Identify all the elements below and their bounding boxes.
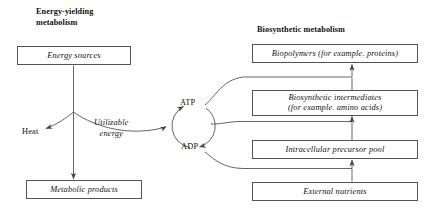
label-heat: Heat <box>22 127 38 137</box>
node-biopolymers: Biopolymers (for example. proteins) <box>252 44 418 63</box>
node-intracellular-precursor-pool: Intracellular precursor pool <box>252 140 418 159</box>
wire-junction-to-heat <box>46 112 74 129</box>
metabolism-flow-diagram: Energy-yielding metabolism Biosynthetic … <box>0 0 431 212</box>
wire-atp-to-adp-arc <box>200 108 216 147</box>
node-biosynthetic-intermediates: Biosynthetic intermediates (for example.… <box>252 90 418 116</box>
label-adp: ADP <box>181 142 198 152</box>
node-metabolic-products: Metabolic products <box>26 180 142 199</box>
node-energy-sources: Energy sources <box>17 46 131 65</box>
wire-cycle-to-intermediates <box>211 122 352 125</box>
section-heading-energy-yielding: Energy-yielding metabolism <box>36 7 93 28</box>
label-atp: ATP <box>180 98 195 108</box>
section-heading-biosynthetic: Biosynthetic metabolism <box>257 25 345 36</box>
node-external-nutrients: External nutrients <box>252 182 418 201</box>
label-utilizable-energy: Utilizable energy <box>94 117 129 139</box>
